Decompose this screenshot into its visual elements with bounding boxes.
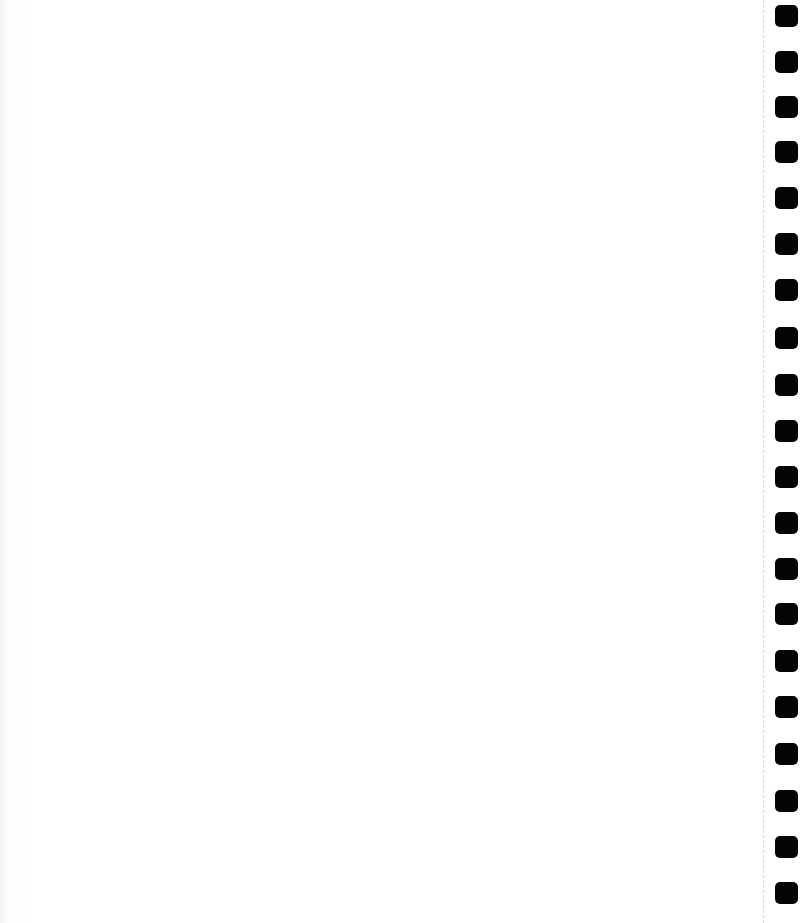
binding-hole [775,233,798,255]
binding-hole [775,466,798,488]
binding-hole [775,374,798,396]
binding-hole [775,696,798,718]
binding-hole [775,603,798,625]
binding-hole [775,51,798,73]
binding-hole [775,882,798,904]
binding-hole [775,5,798,27]
binding-hole [775,141,798,163]
binding-hole [775,512,798,534]
binding-hole [775,743,798,765]
perforation-line [763,0,764,923]
blank-notebook-page [0,0,811,923]
binding-hole [775,187,798,209]
binding-hole [775,327,798,349]
binding-hole [775,790,798,812]
binding-hole [775,279,798,301]
binding-hole [775,558,798,580]
binding-hole [775,650,798,672]
binding-hole [775,96,798,118]
binding-hole [775,836,798,858]
binding-hole [775,420,798,442]
